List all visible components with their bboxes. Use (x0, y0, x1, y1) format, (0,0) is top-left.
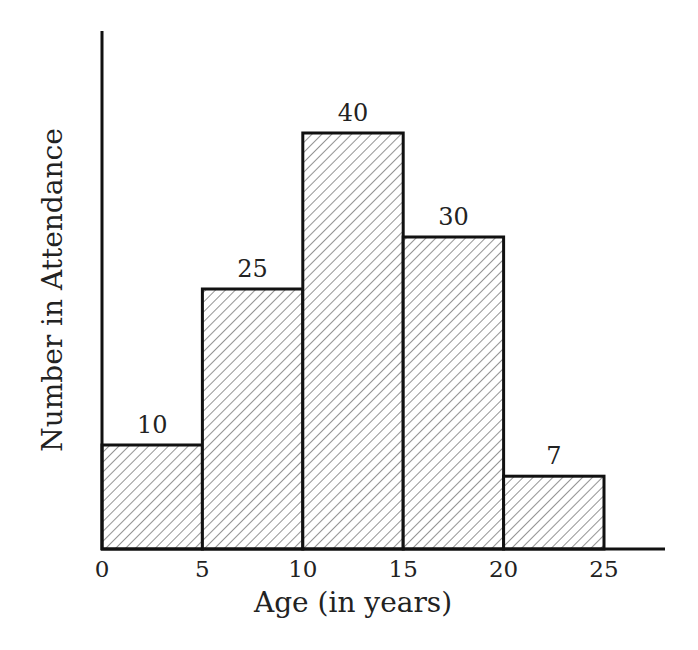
histogram-bar (202, 289, 302, 549)
bar-value-label: 30 (438, 203, 469, 231)
histogram-bar (303, 133, 403, 549)
x-tick-label: 15 (389, 556, 418, 582)
histogram-chart: 102540307 0510152025 Age (in years) Numb… (0, 0, 698, 650)
x-tick-label: 10 (288, 556, 317, 582)
histogram-bar (504, 476, 604, 549)
x-axis-label: Age (in years) (253, 586, 452, 619)
x-tick-labels: 0510152025 (95, 556, 619, 582)
histogram-bar (403, 237, 503, 549)
bar-value-label: 25 (237, 255, 268, 283)
x-tick-label: 20 (489, 556, 518, 582)
bars-group (102, 133, 604, 549)
y-axis-label: Number in Attendance (36, 128, 69, 452)
histogram-bar (102, 445, 202, 549)
bar-value-label: 7 (546, 442, 561, 470)
x-tick-label: 5 (195, 556, 210, 582)
bar-value-label: 10 (137, 411, 168, 439)
x-tick-label: 25 (589, 556, 618, 582)
bar-value-label: 40 (338, 99, 369, 127)
x-tick-label: 0 (95, 556, 110, 582)
